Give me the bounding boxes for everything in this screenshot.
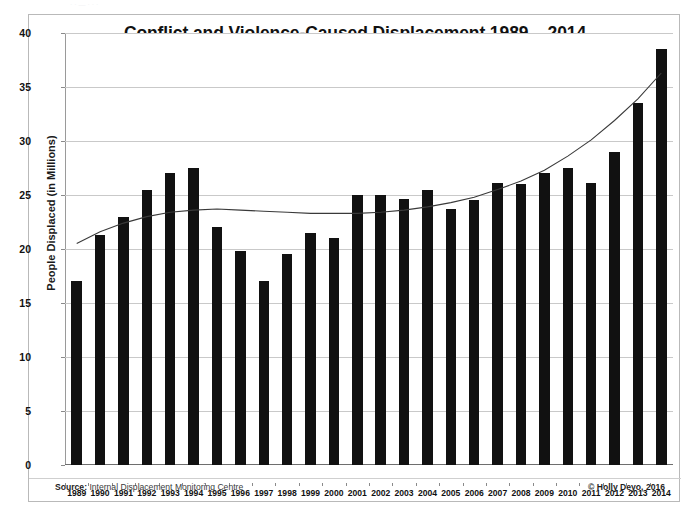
x-tick-label-1998: 1998	[275, 488, 298, 498]
y-tick-label-25: 25	[0, 189, 31, 201]
x-tick-label-2009: 2009	[533, 488, 556, 498]
x-tick-label-2001: 2001	[346, 488, 369, 498]
x-tick-mark-2004	[416, 483, 417, 486]
x-tick-mark-1999	[299, 483, 300, 486]
plot-area: 0510152025303540 19891990199119921993199…	[65, 33, 673, 465]
x-tick-mark-2001	[346, 483, 347, 486]
x-tick-label-1997: 1997	[252, 488, 275, 498]
x-tick-mark-2008	[509, 483, 510, 486]
x-tick-label-2008: 2008	[509, 488, 532, 498]
y-tick-label-15: 15	[0, 297, 31, 309]
x-tick-label-2004: 2004	[416, 488, 439, 498]
chart-figure: · · — · · · Conflict and Violence-Caused…	[0, 0, 698, 517]
x-tick-label-1999: 1999	[299, 488, 322, 498]
y-tick-mark-25	[61, 195, 65, 196]
source-text: Internal Displacement Monitoring Centre	[89, 482, 243, 492]
y-tick-mark-15	[61, 303, 65, 304]
x-tick-mark-2011	[579, 483, 580, 486]
x-tick-mark-2003	[392, 483, 393, 486]
y-tick-label-30: 30	[0, 135, 31, 147]
y-tick-label-40: 40	[0, 27, 31, 39]
x-tick-mark-2009	[533, 483, 534, 486]
x-tick-mark-2006	[463, 483, 464, 486]
x-tick-label-2007: 2007	[486, 488, 509, 498]
x-tick-label-2010: 2010	[556, 488, 579, 498]
x-tick-label-2002: 2002	[369, 488, 392, 498]
chart-card: Conflict and Violence-Caused Displacemen…	[28, 14, 680, 502]
x-tick-mark-1997	[252, 483, 253, 486]
y-tick-mark-5	[61, 411, 65, 412]
y-tick-mark-0	[61, 465, 65, 466]
trend-line	[65, 33, 673, 465]
footer-divider	[29, 478, 681, 479]
x-tick-label-2005: 2005	[439, 488, 462, 498]
source-label: Source:	[55, 482, 87, 492]
y-tick-mark-10	[61, 357, 65, 358]
x-tick-mark-2002	[369, 483, 370, 486]
x-tick-label-2000: 2000	[322, 488, 345, 498]
y-tick-label-0: 0	[0, 459, 31, 471]
y-axis-title: People Displaced (in Millions)	[45, 113, 57, 313]
x-tick-mark-2007	[486, 483, 487, 486]
y-tick-mark-35	[61, 87, 65, 88]
x-tick-mark-1998	[275, 483, 276, 486]
source-note: Source: Internal Displacement Monitoring…	[55, 482, 243, 492]
scan-artifact-text: · · — · · ·	[70, 1, 370, 8]
x-tick-mark-2010	[556, 483, 557, 486]
x-tick-mark-2005	[439, 483, 440, 486]
y-tick-label-35: 35	[0, 81, 31, 93]
x-tick-label-2003: 2003	[392, 488, 415, 498]
x-tick-mark-2000	[322, 483, 323, 486]
y-tick-mark-30	[61, 141, 65, 142]
y-tick-label-20: 20	[0, 243, 31, 255]
y-tick-mark-40	[61, 33, 65, 34]
x-tick-label-2006: 2006	[463, 488, 486, 498]
y-tick-label-5: 5	[0, 405, 31, 417]
copyright-note: © Holly Deyo, 2016	[588, 482, 665, 492]
y-tick-label-10: 10	[0, 351, 31, 363]
y-tick-mark-20	[61, 249, 65, 250]
